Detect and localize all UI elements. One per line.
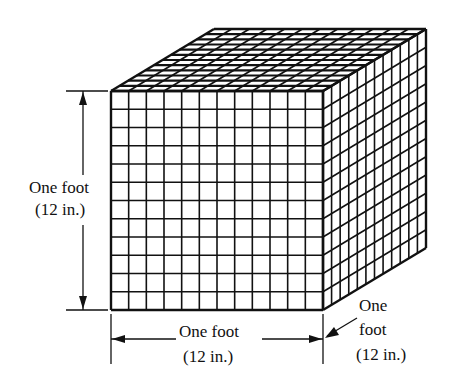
depth-label-line1: One	[359, 296, 387, 316]
width-label-line1: One foot	[176, 322, 242, 342]
width-label-line2: (12 in.)	[183, 347, 233, 367]
depth-label-line3: (12 in.)	[356, 345, 406, 365]
height-label-line2: (12 in.)	[35, 200, 85, 220]
height-label-line1: One foot	[29, 178, 89, 198]
depth-label-line2: foot	[359, 320, 386, 340]
